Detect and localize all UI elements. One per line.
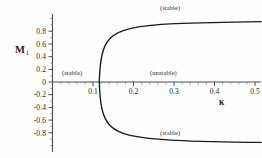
upper-stable-branch-curve (99, 22, 261, 82)
x-tick-label-3: 0.4 (206, 87, 224, 96)
y-tick-label-2: 0.4 (24, 52, 46, 61)
y-tick-label-6: -0.4 (20, 103, 46, 112)
annotation-upper-stable: (stable) (160, 4, 180, 11)
x-axis-label: κ (219, 97, 224, 107)
annotation-center-unstable: (unstable) (150, 69, 177, 76)
y-tick-label-5: -0.2 (20, 90, 46, 99)
y-tick-label-0: 0.8 (24, 27, 46, 36)
x-tick-label-1: 0.2 (125, 87, 143, 96)
x-tick-label-2: 0.3 (165, 87, 183, 96)
x-tick-label-0: 0.1 (84, 87, 102, 96)
bifurcation-diagram-figure: M1 κ 0.8 0.6 0.4 0.2 0 -0.2 -0.4 -0.6 -0… (0, 0, 262, 158)
y-tick-label-7: -0.6 (20, 116, 46, 125)
y-tick-label-8: -0.8 (20, 129, 46, 138)
x-tick-label-4: 0.5 (246, 87, 262, 96)
annotation-left-stable: (stable) (62, 69, 82, 76)
y-axis-major-ticks (49, 31, 53, 133)
annotation-lower-stable: (stable) (160, 129, 180, 136)
y-tick-label-1: 0.6 (24, 40, 46, 49)
y-tick-label-3: 0.2 (24, 65, 46, 74)
y-tick-label-4: 0 (24, 78, 46, 87)
